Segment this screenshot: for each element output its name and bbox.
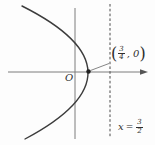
directrix-fraction-numerator: 3 bbox=[137, 119, 141, 126]
directrix-variable: x bbox=[118, 122, 124, 132]
directrix-fraction-denominator: 2 bbox=[136, 127, 142, 135]
point-fraction-numerator: 3 bbox=[119, 46, 123, 53]
directrix-fraction: 32 bbox=[136, 119, 142, 135]
label-leader-line bbox=[91, 64, 110, 71]
equals-sign: = bbox=[126, 123, 134, 132]
open-paren: ( bbox=[111, 45, 117, 62]
close-paren: ) bbox=[139, 45, 145, 62]
vertex-point-dot bbox=[86, 69, 90, 73]
parabola-diagram: O ( 34 , 0 ) x = 32 bbox=[0, 0, 155, 145]
point-fraction-denominator: 4 bbox=[118, 53, 124, 61]
vertex-coordinate-label: ( 34 , 0 ) bbox=[111, 43, 146, 64]
point-fraction: 34 bbox=[118, 46, 124, 62]
x-axis-arrowhead-icon bbox=[140, 69, 148, 74]
point-ordinate: , 0 bbox=[127, 49, 140, 59]
origin-label: O bbox=[65, 73, 73, 83]
directrix-equation-label: x = 32 bbox=[118, 117, 144, 137]
